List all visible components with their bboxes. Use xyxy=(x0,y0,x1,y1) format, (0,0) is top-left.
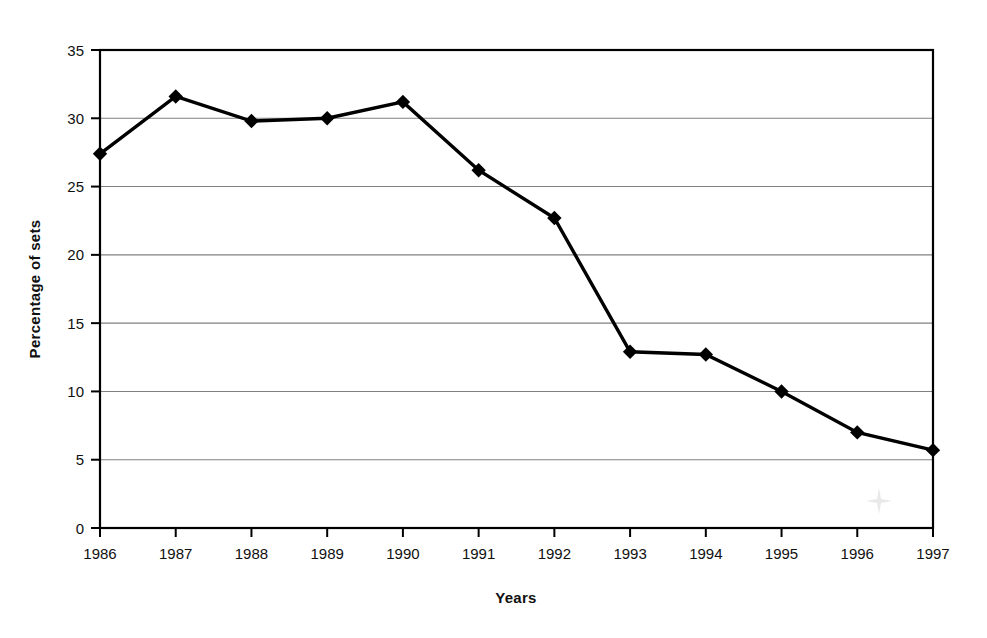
x-axis-tick-label: 1987 xyxy=(159,545,192,562)
y-axis-title: Percentage of sets xyxy=(26,220,43,359)
x-axis-tick-label: 1993 xyxy=(613,545,646,562)
y-axis-tick-label: 25 xyxy=(67,178,84,195)
x-axis-tick-label: 1996 xyxy=(841,545,874,562)
y-axis-tick-labels: 05101520253035 xyxy=(67,42,84,537)
x-axis-tick-label: 1994 xyxy=(689,545,722,562)
y-axis-tick-label: 30 xyxy=(67,110,84,127)
y-axis-tick-label: 5 xyxy=(76,451,84,468)
x-axis-tick-label: 1991 xyxy=(462,545,495,562)
y-axis-tick-label: 15 xyxy=(67,315,84,332)
line-chart: 05101520253035 1986198719881989199019911… xyxy=(0,0,987,638)
x-axis-ticks xyxy=(100,528,933,537)
y-axis-tick-label: 20 xyxy=(67,246,84,263)
x-axis-tick-label: 1986 xyxy=(83,545,116,562)
y-axis-tick-label: 0 xyxy=(76,520,84,537)
plot-area-background xyxy=(100,50,933,528)
x-axis-tick-label: 1989 xyxy=(310,545,343,562)
y-axis-tick-label: 35 xyxy=(67,42,84,59)
x-axis-tick-label: 1995 xyxy=(765,545,798,562)
x-axis-tick-label: 1988 xyxy=(235,545,268,562)
x-axis-tick-label: 1997 xyxy=(916,545,949,562)
x-axis-tick-label: 1990 xyxy=(386,545,419,562)
x-axis-tick-label: 1992 xyxy=(538,545,571,562)
x-axis-title: Years xyxy=(495,589,537,606)
y-axis-ticks xyxy=(91,50,100,528)
x-axis-tick-labels: 1986198719881989199019911992199319941995… xyxy=(83,545,949,562)
y-axis-tick-label: 10 xyxy=(67,383,84,400)
chart-container: 05101520253035 1986198719881989199019911… xyxy=(0,0,987,638)
